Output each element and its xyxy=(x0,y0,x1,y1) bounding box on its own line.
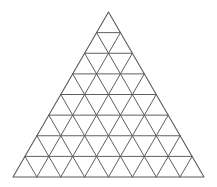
right-parallel-line xyxy=(25,156,37,177)
right-parallel-line xyxy=(49,115,85,177)
left-parallel-line xyxy=(37,33,121,177)
left-parallel-line xyxy=(132,115,168,177)
left-parallel-line xyxy=(180,156,192,177)
right-parallel-line xyxy=(97,33,181,177)
triangular-grid-diagram xyxy=(0,0,217,187)
left-parallel-line xyxy=(85,74,145,177)
right-parallel-line xyxy=(73,74,133,177)
